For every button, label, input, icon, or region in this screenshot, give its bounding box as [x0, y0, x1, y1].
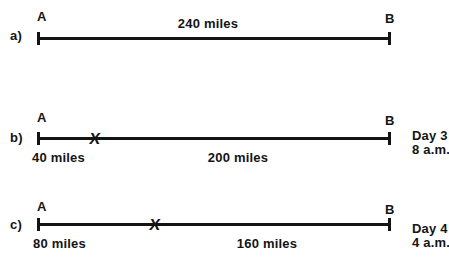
point-a-label: A	[37, 111, 47, 124]
end-tick-left	[37, 32, 40, 45]
distance-diagram: a) A B 240 miles b) A B X 40 miles 200 m…	[0, 0, 449, 264]
end-tick-right	[388, 218, 391, 231]
note-day-label: Day 3	[412, 129, 448, 142]
distance-before-marker-label: 80 miles	[33, 237, 86, 250]
row-label: c)	[10, 218, 22, 231]
point-b-label: B	[385, 203, 395, 216]
position-x-marker: X	[88, 131, 101, 147]
point-b-label: B	[385, 12, 395, 25]
note-time-label: 8 a.m.	[412, 143, 449, 156]
end-tick-left	[37, 132, 40, 145]
segment-line	[37, 223, 391, 226]
point-a-label: A	[37, 10, 47, 23]
point-b-label: B	[385, 114, 395, 127]
distance-after-marker-label: 200 miles	[208, 151, 268, 164]
row-label: a)	[10, 29, 22, 42]
position-x-marker: X	[148, 217, 161, 233]
end-tick-left	[37, 218, 40, 231]
distance-after-marker-label: 160 miles	[237, 237, 297, 250]
note-day-label: Day 4	[412, 222, 448, 235]
row-label: b)	[10, 131, 23, 144]
note-time-label: 4 a.m.	[412, 236, 449, 249]
distance-before-marker-label: 40 miles	[32, 151, 85, 164]
point-a-label: A	[37, 200, 47, 213]
total-distance-label: 240 miles	[178, 17, 238, 30]
end-tick-right	[388, 132, 391, 145]
segment-line	[37, 37, 391, 40]
end-tick-right	[388, 32, 391, 45]
